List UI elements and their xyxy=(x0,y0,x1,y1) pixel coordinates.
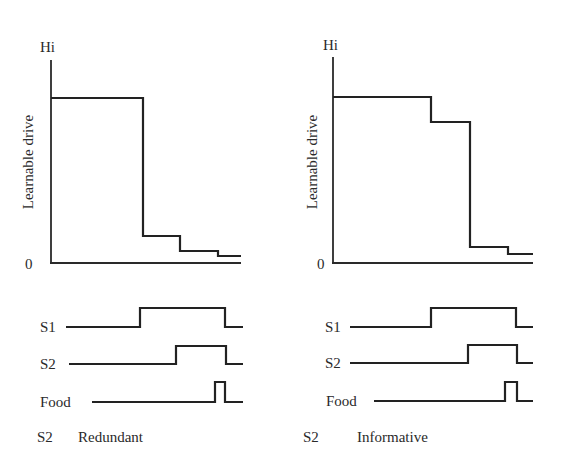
timing-line-food xyxy=(92,382,243,402)
y-axis-top-label: Hi xyxy=(323,37,338,53)
timing-line-s2 xyxy=(350,345,533,363)
y-axis-label: Learnable drive xyxy=(20,114,36,209)
timing-label-s1: S1 xyxy=(40,319,56,335)
timing-label-food: Food xyxy=(40,394,71,410)
caption-condition: Redundant xyxy=(78,429,144,445)
timing-label-s2: S2 xyxy=(40,356,56,372)
timing-label-food: Food xyxy=(326,393,357,409)
timing-label-s2: S2 xyxy=(325,355,341,371)
timing-line-s1 xyxy=(66,308,243,327)
timing-line-s2 xyxy=(69,346,243,364)
timing-line-s1 xyxy=(350,308,533,327)
caption-condition: Informative xyxy=(357,429,428,445)
caption-stimulus: S2 xyxy=(37,429,53,445)
drive-curve xyxy=(51,98,241,256)
y-axis-top-label: Hi xyxy=(40,39,55,55)
y-axis-zero-label: 0 xyxy=(317,256,325,272)
panel-informative: Hi 0 Learnable drive S1 S2 Food S2 Infor… xyxy=(303,37,533,445)
drive-curve xyxy=(333,97,533,254)
y-axis-zero-label: 0 xyxy=(25,256,33,272)
timing-line-food xyxy=(374,382,533,401)
y-axis-label: Learnable drive xyxy=(304,114,320,209)
panel-redundant: Hi 0 Learnable drive S1 S2 Food S2 Redun… xyxy=(20,39,243,445)
caption-stimulus: S2 xyxy=(303,429,319,445)
diagram-canvas: Hi 0 Learnable drive S1 S2 Food S2 Redun… xyxy=(0,0,562,472)
timing-label-s1: S1 xyxy=(325,319,341,335)
